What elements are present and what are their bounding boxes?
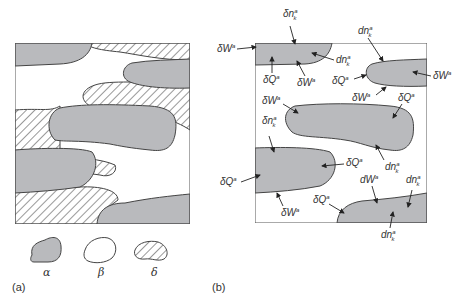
label-dW-left: δWa <box>217 43 236 54</box>
legend-alpha-swatch <box>31 238 61 262</box>
legend-alpha-label: α <box>43 266 51 279</box>
panel-b-microstructure <box>255 43 427 223</box>
legend-delta-swatch <box>134 241 167 260</box>
label-dQ-left: δQa <box>220 176 237 187</box>
panel-a-label: (a) <box>12 281 25 293</box>
label-dW-right: δWa <box>433 70 452 81</box>
panel-a-microstructure <box>15 43 190 224</box>
legend-beta-swatch <box>84 238 116 263</box>
legend: α β δ <box>31 238 167 280</box>
label-dnk-2: dnak <box>358 25 373 38</box>
label-dn-top: δnak <box>283 8 298 21</box>
panel-b-label: (b) <box>212 281 225 293</box>
label-dnk-5: dnak <box>381 229 396 242</box>
legend-beta-label: β <box>97 266 104 279</box>
diagram: α β δ (a) δnak δWa δQa δWa dnak dnak <box>0 0 466 298</box>
legend-delta-label: δ <box>151 266 158 279</box>
